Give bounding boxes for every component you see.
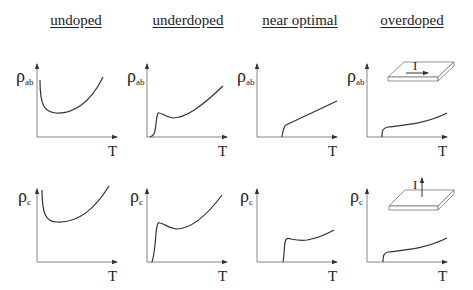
current-label: I: [413, 177, 417, 192]
curve: [282, 101, 337, 137]
y-label: ρab: [237, 66, 255, 87]
panel-undoped-rho-ab: ρab T: [16, 64, 117, 159]
x-label: T: [328, 143, 337, 159]
curve: [150, 86, 223, 137]
current-label: I: [413, 58, 417, 73]
curve: [40, 77, 103, 113]
panel-underdoped-rho-c: ρc T: [130, 186, 227, 284]
curve: [42, 186, 109, 222]
curve: [382, 113, 447, 137]
panel-overdoped-rho-c: ρc T I: [350, 177, 454, 284]
x-label: T: [438, 268, 447, 284]
curve: [383, 238, 447, 262]
y-label: ρab: [16, 66, 34, 87]
panel-near-optimal-rho-c: ρc T: [240, 186, 337, 284]
y-label: ρc: [350, 186, 363, 207]
x-label: T: [108, 268, 117, 284]
slab-inset-in-plane: I: [388, 58, 454, 81]
x-label: T: [218, 143, 227, 159]
curve: [152, 195, 222, 262]
resistivity-diagram: ρab T ρab T ρab T ρab T I ρc: [0, 0, 473, 290]
y-label: ρab: [127, 66, 145, 87]
x-label: T: [108, 143, 117, 159]
curve: [283, 230, 334, 262]
y-label: ρc: [130, 186, 143, 207]
x-label: T: [218, 268, 227, 284]
slab-inset-out-of-plane: I: [389, 177, 454, 210]
y-label: ρc: [18, 186, 31, 207]
panel-undoped-rho-c: ρc T: [18, 186, 117, 284]
y-label: ρc: [240, 186, 253, 207]
panel-near-optimal-rho-ab: ρab T: [237, 64, 337, 159]
panel-overdoped-rho-ab: ρab T I: [347, 58, 454, 159]
panel-underdoped-rho-ab: ρab T: [127, 64, 227, 159]
x-label: T: [328, 268, 337, 284]
x-label: T: [438, 143, 447, 159]
y-label: ρab: [347, 66, 365, 87]
